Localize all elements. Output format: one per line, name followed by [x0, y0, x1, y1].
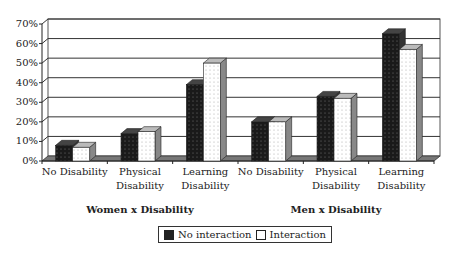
y-tick-label: 30%	[16, 96, 38, 107]
bar-interaction	[399, 44, 422, 161]
y-tick-label: 20%	[16, 116, 38, 127]
x-category-label: Learning	[182, 166, 228, 177]
group-label: Men x Disability	[290, 204, 382, 215]
group-label: Women x Disability	[85, 204, 195, 215]
x-category-label: Physical	[315, 166, 357, 177]
y-tick-label: 50%	[16, 57, 38, 68]
x-category-label: Disability	[312, 180, 360, 191]
legend-label-no-interaction: No interaction	[178, 229, 252, 240]
chart-root: 0%10%20%30%40%50%60%70%No DisabilityPhys…	[0, 0, 454, 268]
legend-swatch-interaction	[256, 230, 266, 240]
bar-interaction	[334, 93, 357, 161]
bar-interaction	[203, 58, 226, 161]
x-category-label: Learning	[378, 166, 424, 177]
x-category-label: Disability	[181, 180, 229, 191]
x-category-label: Disability	[116, 180, 164, 191]
x-category-label: No Disability	[238, 166, 304, 177]
x-category-label: No Disability	[42, 166, 108, 177]
legend-swatch-no-interaction	[164, 230, 174, 240]
x-category-label: Physical	[119, 166, 161, 177]
y-tick-label: 10%	[16, 135, 38, 146]
y-tick-label: 70%	[16, 18, 38, 29]
y-tick-label: 60%	[16, 38, 38, 49]
legend: No interaction Interaction	[158, 226, 332, 243]
bar-interaction	[73, 142, 96, 161]
y-tick-label: 40%	[16, 77, 38, 88]
bar-interaction	[269, 117, 292, 161]
bar-interaction	[138, 127, 161, 161]
x-category-label: Disability	[377, 180, 425, 191]
y-tick-label: 0%	[22, 155, 38, 166]
legend-label-interaction: Interaction	[270, 229, 326, 240]
